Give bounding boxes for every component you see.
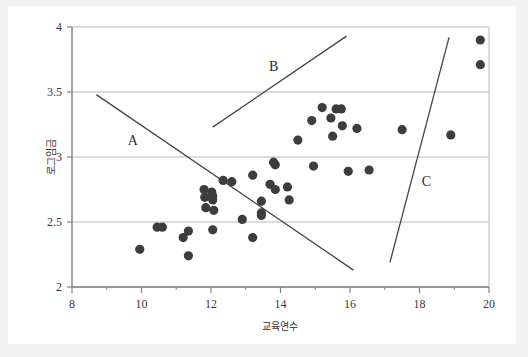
data-point bbox=[248, 233, 257, 242]
data-point bbox=[318, 103, 327, 112]
data-point bbox=[283, 182, 292, 191]
x-tick-label: 12 bbox=[205, 298, 217, 310]
x-tick-label: 18 bbox=[414, 298, 426, 310]
x-tick-label: 10 bbox=[136, 298, 148, 310]
data-point bbox=[209, 206, 218, 215]
data-point bbox=[227, 177, 236, 186]
reference-line-label-A: A bbox=[128, 134, 138, 148]
data-point bbox=[307, 116, 316, 125]
data-point bbox=[257, 197, 266, 206]
data-point bbox=[271, 160, 280, 169]
y-tick-label: 3.5 bbox=[32, 86, 62, 98]
y-tick-label: 2 bbox=[32, 281, 62, 293]
data-point bbox=[158, 223, 167, 232]
data-point bbox=[476, 60, 485, 69]
grid-lines bbox=[72, 27, 489, 287]
reference-line-C bbox=[390, 37, 449, 262]
reference-line-label-C: C bbox=[422, 175, 431, 189]
data-point bbox=[208, 225, 217, 234]
y-axis-title: 로그임금 bbox=[43, 139, 58, 175]
x-tick-label: 16 bbox=[344, 298, 356, 310]
y-tick-label: 2.5 bbox=[32, 216, 62, 228]
data-points bbox=[135, 35, 485, 260]
data-point bbox=[219, 176, 228, 185]
data-point bbox=[248, 171, 257, 180]
x-tick-label: 20 bbox=[483, 298, 495, 310]
data-point bbox=[476, 35, 485, 44]
data-point bbox=[184, 251, 193, 260]
data-point bbox=[201, 203, 210, 212]
data-point bbox=[184, 227, 193, 236]
data-point bbox=[257, 211, 266, 220]
data-point bbox=[293, 136, 302, 145]
figure-root: 810121416182022.533.54 ABC 교육연수 로그임금 bbox=[0, 0, 528, 357]
data-point bbox=[271, 185, 280, 194]
y-tick-label: 4 bbox=[32, 21, 62, 33]
data-point bbox=[208, 195, 217, 204]
data-point bbox=[238, 215, 247, 224]
data-point bbox=[365, 165, 374, 174]
data-point bbox=[326, 113, 335, 122]
data-point bbox=[398, 125, 407, 134]
scatter-plot-canvas bbox=[0, 0, 528, 357]
data-point bbox=[338, 121, 347, 130]
data-point bbox=[446, 130, 455, 139]
data-point bbox=[352, 124, 361, 133]
data-point bbox=[135, 245, 144, 254]
x-tick-label: 8 bbox=[69, 298, 75, 310]
data-point bbox=[344, 167, 353, 176]
reference-line-label-B: B bbox=[269, 60, 278, 74]
x-axis-title: 교육연수 bbox=[262, 318, 298, 333]
data-point bbox=[285, 195, 294, 204]
data-point bbox=[337, 104, 346, 113]
x-tick-label: 14 bbox=[275, 298, 287, 310]
data-point bbox=[328, 132, 337, 141]
reference-line-B bbox=[213, 36, 347, 127]
data-point bbox=[309, 162, 318, 171]
